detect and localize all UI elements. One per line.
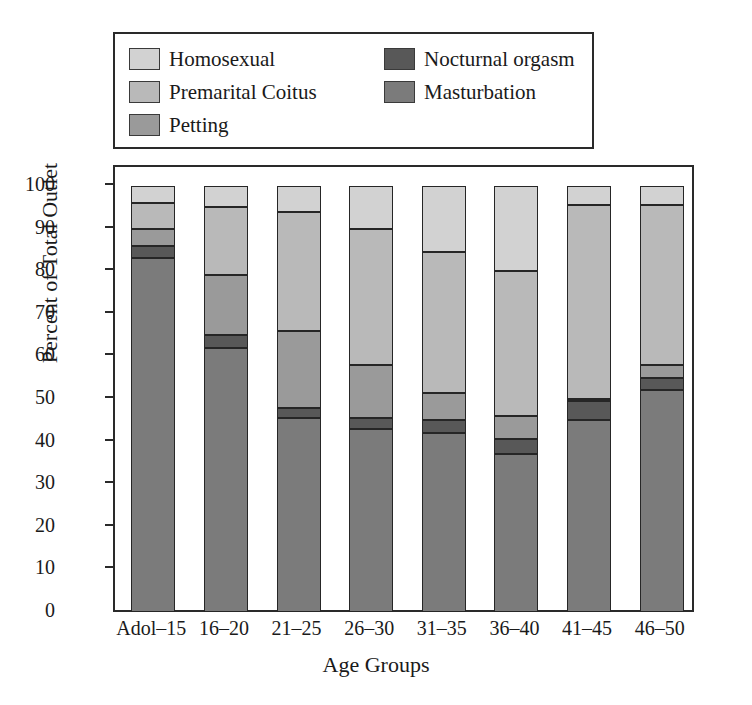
bar-segment-petting[interactable]: [131, 229, 175, 246]
stacked-bar[interactable]: [567, 167, 611, 614]
x-tick-label: 41–45: [562, 617, 612, 640]
bar-segment-masturbation[interactable]: [494, 454, 538, 612]
bar-segment-nocturnal-orgasm[interactable]: [131, 246, 175, 259]
bar-segment-nocturnal-orgasm[interactable]: [640, 378, 684, 391]
y-tick-label-10: 10: [35, 556, 55, 579]
bar-segment-petting[interactable]: [349, 365, 393, 418]
legend-swatch-nocturnal-orgasm: [384, 48, 415, 70]
bar-segment-petting[interactable]: [204, 275, 248, 335]
bar-segment-premarital-coitus[interactable]: [277, 212, 321, 331]
bar-segment-petting[interactable]: [640, 365, 684, 378]
bar-segment-homosexual[interactable]: [494, 186, 538, 271]
bar-segment-masturbation[interactable]: [640, 390, 684, 612]
bar-segment-homosexual[interactable]: [349, 186, 393, 229]
x-tick-label: 26–30: [344, 617, 394, 640]
bar-segment-petting[interactable]: [494, 416, 538, 439]
legend-column-2: Nocturnal orgasm Masturbation: [384, 42, 594, 141]
bar-segment-premarital-coitus[interactable]: [422, 252, 466, 393]
y-tick-label-30: 30: [35, 471, 55, 494]
legend-swatch-premarital-coitus: [129, 81, 160, 103]
legend-label-petting: Petting: [169, 114, 229, 136]
stacked-bar[interactable]: [494, 167, 538, 614]
y-axis-title: Percent of Total Outlet: [37, 63, 63, 463]
x-tick-label: 16–20: [199, 617, 249, 640]
bar-segment-masturbation[interactable]: [204, 348, 248, 612]
x-axis-title: Age Groups: [0, 652, 752, 678]
bar-segment-homosexual[interactable]: [204, 186, 248, 207]
stacked-bar[interactable]: [422, 167, 466, 614]
bar-segment-premarital-coitus[interactable]: [131, 203, 175, 229]
legend-item-nocturnal-orgasm: Nocturnal orgasm: [384, 42, 594, 75]
legend-swatch-masturbation: [384, 81, 415, 103]
plot-area: [113, 165, 694, 612]
stacked-bar[interactable]: [640, 167, 684, 614]
legend-column-1: Homosexual Premarital Coitus Petting: [129, 42, 384, 141]
bar-segment-premarital-coitus[interactable]: [640, 205, 684, 365]
bar-segment-nocturnal-orgasm[interactable]: [422, 420, 466, 433]
bar-segment-petting[interactable]: [422, 393, 466, 421]
legend-item-premarital-coitus: Premarital Coitus: [129, 75, 384, 108]
bar-segment-homosexual[interactable]: [131, 186, 175, 203]
bars-layer: [115, 167, 692, 610]
stacked-bar[interactable]: [349, 167, 393, 614]
legend-label-homosexual: Homosexual: [169, 48, 275, 70]
legend-item-petting: Petting: [129, 108, 384, 141]
bar-segment-nocturnal-orgasm[interactable]: [494, 439, 538, 454]
x-tick-label: 36–40: [489, 617, 539, 640]
bar-segment-homosexual[interactable]: [422, 186, 466, 252]
stacked-bar[interactable]: [204, 167, 248, 614]
bar-segment-homosexual[interactable]: [277, 186, 321, 212]
bar-segment-nocturnal-orgasm[interactable]: [349, 418, 393, 429]
bar-segment-nocturnal-orgasm[interactable]: [204, 335, 248, 348]
chart-legend: Homosexual Premarital Coitus Petting Noc…: [113, 32, 594, 149]
y-tick-label-20: 20: [35, 513, 55, 536]
bar-segment-premarital-coitus[interactable]: [494, 271, 538, 416]
bar-segment-homosexual[interactable]: [567, 186, 611, 205]
bar-segment-nocturnal-orgasm[interactable]: [567, 401, 611, 420]
legend-swatch-petting: [129, 114, 160, 136]
legend-columns: Homosexual Premarital Coitus Petting Noc…: [129, 42, 594, 141]
stacked-bar[interactable]: [277, 167, 321, 614]
bar-segment-masturbation[interactable]: [422, 433, 466, 612]
bar-segment-premarital-coitus[interactable]: [349, 229, 393, 365]
legend-swatch-homosexual: [129, 48, 160, 70]
bar-segment-masturbation[interactable]: [567, 420, 611, 612]
y-tick-label-0: 0: [45, 599, 55, 622]
bar-segment-petting[interactable]: [567, 399, 611, 401]
legend-label-masturbation: Masturbation: [424, 81, 536, 103]
legend-label-premarital-coitus: Premarital Coitus: [169, 81, 317, 103]
bar-segment-homosexual[interactable]: [640, 186, 684, 205]
legend-label-nocturnal-orgasm: Nocturnal orgasm: [424, 48, 575, 70]
bar-segment-masturbation[interactable]: [277, 418, 321, 612]
x-tick-label: 21–25: [272, 617, 322, 640]
legend-item-homosexual: Homosexual: [129, 42, 384, 75]
stacked-bar[interactable]: [131, 167, 175, 614]
chart-page: Homosexual Premarital Coitus Petting Noc…: [0, 0, 752, 705]
x-tick-label: 46–50: [635, 617, 685, 640]
bar-segment-petting[interactable]: [277, 331, 321, 408]
bar-segment-masturbation[interactable]: [349, 429, 393, 612]
bar-segment-nocturnal-orgasm[interactable]: [277, 408, 321, 419]
bar-segment-masturbation[interactable]: [131, 258, 175, 612]
x-tick-label: Adol–15: [116, 617, 186, 640]
bar-segment-premarital-coitus[interactable]: [567, 205, 611, 399]
legend-item-masturbation: Masturbation: [384, 75, 594, 108]
bar-segment-premarital-coitus[interactable]: [204, 207, 248, 275]
x-tick-label: 31–35: [417, 617, 467, 640]
